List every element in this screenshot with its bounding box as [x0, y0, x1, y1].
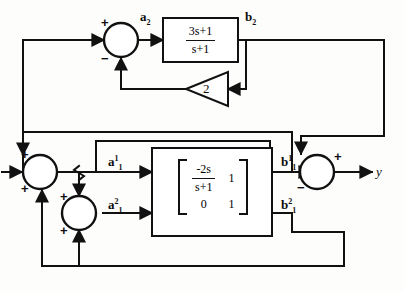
summer-output-minus-sign: −: [297, 181, 305, 194]
signal-label-b12: b21: [281, 198, 296, 211]
gain-value: 2: [203, 82, 210, 95]
matrix-cell-r0c0: -2s s+1: [192, 162, 215, 195]
summer-left-upper-plus-bottom: +: [21, 182, 29, 195]
signal-label-b2: b2: [245, 10, 256, 23]
wire-b12-right: [292, 213, 344, 232]
matrix-r0c0-numerator: -2s: [192, 162, 215, 179]
summer-top: [104, 23, 138, 57]
signal-label-b11: b11: [281, 155, 296, 168]
signal-label-a12: a21: [108, 198, 123, 211]
summer-top-minus-sign: −: [101, 52, 109, 65]
matrix-grid: -2s s+1 1 0 1: [187, 159, 239, 215]
matrix-bracket-right: [239, 159, 248, 215]
matrix-r0c0-denominator: s+1: [192, 179, 215, 195]
block-diagram: 3s+1 s+1 2 -2s s+1 1 0 1 a2 b2 a11 a: [0, 0, 404, 292]
signal-label-a2: a2: [140, 10, 151, 23]
top-transfer-function-expression: 3s+1 s+1: [163, 18, 238, 62]
matrix-cell-r1c1: 1: [228, 197, 234, 212]
summer-top-plus-sign: +: [101, 16, 109, 29]
wire-b2-to-output-summer: [301, 40, 384, 154]
summer-left-lower-plus-bottom: +: [60, 224, 68, 237]
tf-denominator: s+1: [186, 41, 215, 57]
summer-output-plus-sign: +: [334, 150, 342, 163]
matrix-bracket-left: [178, 159, 187, 215]
wire-b12-bottom: [79, 232, 344, 266]
summer-output: [300, 155, 334, 189]
signal-label-a11: a11: [108, 155, 123, 168]
matrix-cell-r1c0: 0: [201, 197, 207, 212]
summer-left-lower-plus-top: +: [60, 190, 68, 203]
output-label-y: y: [376, 165, 382, 178]
matrix-expression: -2s s+1 1 0 1: [178, 159, 248, 215]
tf-numerator: 3s+1: [186, 24, 215, 41]
summer-left-upper-plus-top: +: [21, 148, 29, 161]
matrix-cell-r0c1: 1: [228, 171, 234, 186]
